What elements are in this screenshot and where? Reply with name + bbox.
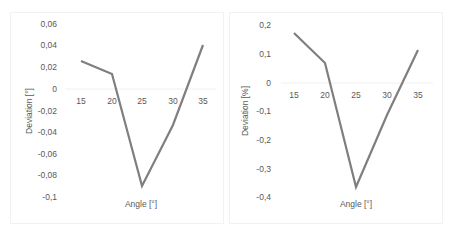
y-tick: -0,02 [38, 106, 58, 116]
y-tick: 0,02 [40, 62, 57, 72]
y-tick: -0,4 [256, 192, 271, 202]
x-tick: 20 [107, 96, 117, 106]
x-axis-label: Angle [°] [125, 199, 157, 209]
x-tick: 25 [137, 96, 147, 106]
y-tick-labels: 0,06 0,04 0,02 0 -0,02 -0,04 -0,06 -0,08… [38, 19, 58, 202]
x-tick: 35 [198, 96, 208, 106]
chart-right-panel: 0,2 0,1 0 -0,1 -0,2 -0,3 -0,4 15 20 25 3… [229, 12, 443, 224]
y-tick: -0,2 [256, 135, 271, 145]
x-tick-labels: 15 20 25 30 35 [76, 96, 208, 106]
y-axis-label: Deviation [°] [24, 88, 34, 134]
x-tick: 25 [351, 90, 361, 100]
y-axis-label: Deviation [%] [240, 86, 250, 136]
data-line [294, 33, 418, 187]
y-tick: -0,1 [42, 192, 57, 202]
x-tick: 15 [76, 96, 86, 106]
y-tick: -0,1 [256, 106, 271, 116]
y-tick: -0,06 [38, 149, 58, 159]
x-tick-labels: 15 20 25 30 35 [289, 90, 423, 100]
y-tick: -0,04 [38, 127, 58, 137]
chart-left-panel: 0,06 0,04 0,02 0 -0,02 -0,04 -0,06 -0,08… [10, 12, 224, 224]
y-tick: 0,06 [40, 19, 57, 29]
data-line [81, 45, 203, 186]
chart-left: 0,06 0,04 0,02 0 -0,02 -0,04 -0,06 -0,08… [11, 13, 223, 223]
y-tick: 0 [266, 78, 271, 88]
y-tick: 0,2 [259, 20, 271, 30]
y-tick: 0,1 [259, 49, 271, 59]
y-tick: 0 [52, 84, 57, 94]
x-tick: 15 [289, 90, 299, 100]
chart-right: 0,2 0,1 0 -0,1 -0,2 -0,3 -0,4 15 20 25 3… [230, 13, 442, 223]
x-tick: 30 [382, 90, 392, 100]
y-tick-labels: 0,2 0,1 0 -0,1 -0,2 -0,3 -0,4 [256, 20, 271, 202]
x-tick: 35 [413, 90, 423, 100]
x-tick: 30 [168, 96, 178, 106]
y-tick: 0,04 [40, 40, 57, 50]
x-axis-label: Angle [°] [340, 199, 372, 209]
x-tick: 20 [320, 90, 330, 100]
y-tick: -0,08 [38, 170, 58, 180]
y-tick: -0,3 [256, 164, 271, 174]
